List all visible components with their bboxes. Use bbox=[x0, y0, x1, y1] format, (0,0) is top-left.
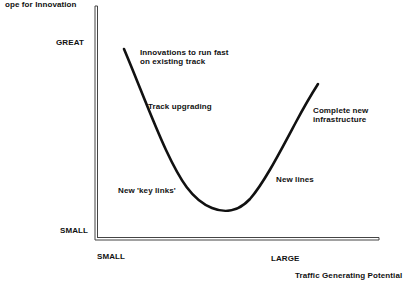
annotation-key-links: New 'key links' bbox=[118, 186, 176, 195]
y-tick-great: GREAT bbox=[56, 38, 84, 47]
y-tick-small: SMALL bbox=[60, 226, 88, 235]
x-tick-large: LARGE bbox=[271, 254, 300, 263]
annotation-line: Complete new bbox=[313, 106, 368, 115]
y-axis-title: ope for Innovation bbox=[5, 0, 77, 9]
x-tick-small: SMALL bbox=[97, 252, 125, 261]
y-axis bbox=[95, 6, 98, 240]
annotation-line: on existing track bbox=[140, 57, 229, 66]
annotation-new-lines: New lines bbox=[276, 175, 314, 184]
annotation-line: Innovations to run fast bbox=[140, 48, 229, 57]
annotation-line: infrastructure bbox=[313, 115, 368, 124]
x-axis-title: Traffic Generating Potential bbox=[295, 271, 402, 280]
x-axis bbox=[95, 238, 379, 241]
annotation-complete-new-infrastructure: Complete new infrastructure bbox=[313, 106, 368, 124]
annotation-track-upgrading: Track upgrading bbox=[148, 102, 212, 111]
annotation-innovations-fast: Innovations to run fast on existing trac… bbox=[140, 48, 229, 66]
